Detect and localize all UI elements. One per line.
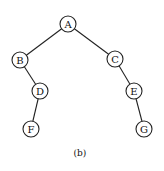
edge-a-c xyxy=(68,24,115,59)
edge-a-b xyxy=(20,24,68,60)
node-e: E xyxy=(126,83,142,99)
node-f-label: F xyxy=(28,124,35,135)
node-d-label: D xyxy=(36,86,44,97)
tree-diagram: A B C D E F G (b) xyxy=(0,0,164,171)
node-c: C xyxy=(107,51,123,67)
node-a: A xyxy=(60,16,76,32)
node-c-label: C xyxy=(111,54,119,65)
node-b-label: B xyxy=(16,55,23,66)
node-g-label: G xyxy=(140,124,148,135)
node-a-label: A xyxy=(63,19,72,30)
node-g: G xyxy=(136,121,152,137)
node-e-label: E xyxy=(130,86,137,97)
figure-caption: (b) xyxy=(74,148,87,158)
node-b: B xyxy=(12,52,28,68)
node-d: D xyxy=(32,83,48,99)
node-f: F xyxy=(23,121,39,137)
